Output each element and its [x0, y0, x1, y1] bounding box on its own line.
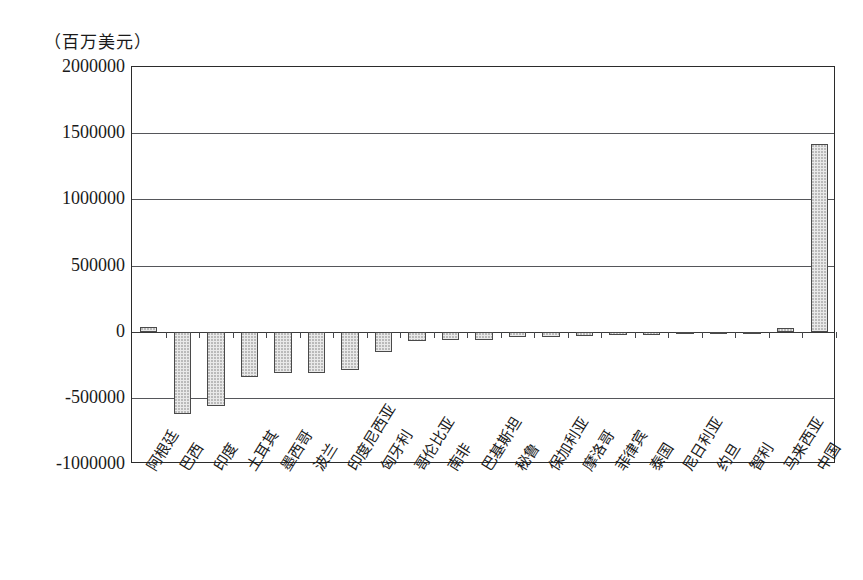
bar [676, 332, 693, 334]
x-tick-mark [534, 332, 535, 338]
x-tick-mark [166, 332, 167, 338]
gridline-1000000 [132, 199, 834, 200]
x-tick-mark [300, 332, 301, 338]
chart-figure: （百万美元） 2000000150000010000005000000-5000… [0, 0, 863, 580]
bar [375, 332, 392, 352]
bar [811, 144, 828, 332]
bar [140, 327, 157, 332]
bar [174, 332, 191, 414]
y-axis-tick-labels: 2000000150000010000005000000-500000-1000… [0, 0, 125, 580]
x-tick-mark [400, 332, 401, 338]
bar [341, 332, 358, 370]
y-tick-label: 1500000 [5, 123, 125, 141]
y-tick-label: -500000 [5, 388, 125, 406]
x-tick-mark [367, 332, 368, 338]
x-axis-category-labels: 阿根廷巴西印度土耳其墨西哥波兰印度尼西亚匈牙利哥伦比亚南非巴基斯坦秘鲁保加利亚摩… [131, 466, 835, 580]
bar [408, 332, 425, 342]
x-tick-mark [735, 332, 736, 338]
bar [710, 332, 727, 334]
bar [609, 332, 626, 335]
x-tick-mark [333, 332, 334, 338]
gridline-500000 [132, 266, 834, 267]
y-tick-label: 0 [5, 322, 125, 340]
bar [542, 332, 559, 337]
x-tick-mark [802, 332, 803, 338]
plot-area [131, 66, 835, 463]
x-tick-mark [601, 332, 602, 338]
gridline-1500000 [132, 133, 834, 134]
bar [274, 332, 291, 374]
x-tick-mark [199, 332, 200, 338]
y-tick-label: 2000000 [5, 57, 125, 75]
x-tick-mark [233, 332, 234, 338]
x-tick-mark [568, 332, 569, 338]
x-tick-mark [266, 332, 267, 338]
bar [509, 332, 526, 338]
y-tick-label: 1000000 [5, 189, 125, 207]
y-tick-label: 500000 [5, 256, 125, 274]
bar [576, 332, 593, 336]
x-tick-mark [635, 332, 636, 338]
bar [442, 332, 459, 340]
x-tick-mark [702, 332, 703, 338]
bar [743, 332, 760, 334]
bar [643, 332, 660, 335]
bar [207, 332, 224, 407]
bar [308, 332, 325, 373]
bar [475, 332, 492, 340]
x-tick-mark [467, 332, 468, 338]
x-tick-mark [836, 332, 837, 338]
x-tick-mark [501, 332, 502, 338]
bar [777, 328, 794, 331]
x-tick-mark [668, 332, 669, 338]
gridline--500000 [132, 398, 834, 399]
y-tick-label: -1000000 [5, 454, 125, 472]
x-tick-mark [434, 332, 435, 338]
x-tick-mark [769, 332, 770, 338]
bar [241, 332, 258, 377]
